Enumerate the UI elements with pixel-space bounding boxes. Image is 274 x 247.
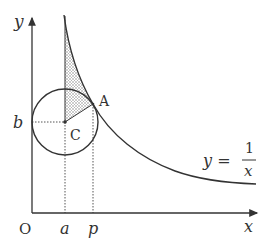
point-A-label: A [98, 93, 110, 109]
y-axis-label: y [13, 11, 24, 31]
shaded-region [65, 16, 93, 122]
point-C-label: C [70, 127, 81, 143]
equation-denominator: x [244, 162, 253, 180]
equation-lhs: y = [202, 151, 231, 170]
origin-label: O [19, 220, 31, 238]
tick-b-label: b [13, 113, 23, 132]
tick-p-label: p [88, 219, 98, 238]
point-C [63, 120, 67, 124]
diagram-canvas: y x O a p b A C y = 1 x [0, 0, 274, 247]
equation-numerator: 1 [245, 140, 254, 156]
point-A [92, 103, 95, 106]
tick-a-label: a [60, 219, 70, 238]
x-axis-label: x [244, 217, 253, 236]
